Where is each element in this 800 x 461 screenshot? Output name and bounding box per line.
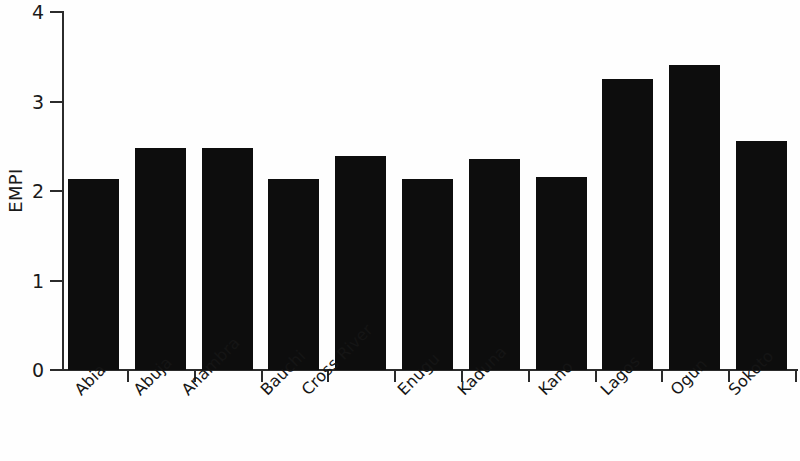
- bar: [135, 148, 186, 370]
- y-axis-tick-label: 2: [8, 182, 44, 201]
- x-axis-tick-mark: [528, 371, 530, 382]
- y-axis-tick-label: 3: [8, 93, 44, 112]
- bar: [402, 179, 453, 370]
- bar: [268, 179, 319, 370]
- bar: [736, 141, 787, 370]
- y-axis-tick-mark: [50, 190, 64, 192]
- x-axis-tick-mark: [795, 371, 797, 382]
- bar: [68, 179, 119, 370]
- x-axis-tick-mark: [661, 371, 663, 382]
- bar: [669, 65, 720, 370]
- bar-chart: EMPI 01234 AbiaAbujaAnambraBauchiCross R…: [0, 0, 800, 461]
- y-axis-tick-label: 0: [8, 361, 44, 380]
- y-axis-tick-mark: [50, 11, 64, 13]
- bar: [536, 177, 587, 370]
- y-axis-tick-mark: [50, 101, 64, 103]
- x-axis-tick-mark: [595, 371, 597, 382]
- y-axis-tick-label: 1: [8, 272, 44, 291]
- x-axis-tick-mark: [394, 371, 396, 382]
- y-axis-tick-mark: [50, 369, 64, 371]
- bar: [469, 159, 520, 370]
- y-axis-tick-label: 4: [8, 3, 44, 22]
- x-axis-tick-mark: [127, 371, 129, 382]
- bar: [602, 79, 653, 370]
- y-axis-tick-mark: [50, 280, 64, 282]
